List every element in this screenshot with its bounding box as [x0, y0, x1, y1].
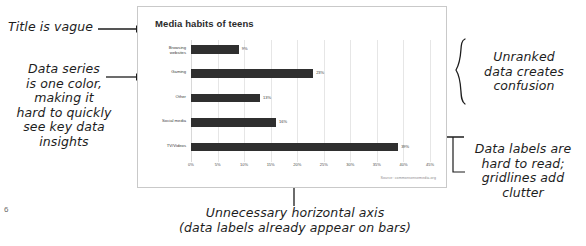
- annotation-axis: Unnecessary horizontal axis (data labels…: [150, 206, 440, 235]
- category-label: TV/Videos: [152, 143, 186, 148]
- gridline: [430, 40, 431, 162]
- bar-value-label: 13%: [263, 94, 271, 103]
- chart-row: 39%: [191, 138, 430, 158]
- x-tick-label: 15%: [267, 162, 275, 167]
- x-tick-label: 35%: [373, 162, 381, 167]
- x-tick-label: 45%: [426, 162, 434, 167]
- x-tick-label: 25%: [320, 162, 328, 167]
- bar[interactable]: [191, 45, 239, 54]
- x-tick-label: 0%: [188, 162, 194, 167]
- x-axis: 0%5%10%15%20%25%30%35%40%45%: [191, 162, 430, 172]
- bar[interactable]: [191, 118, 276, 127]
- bar-value-label: 39%: [401, 143, 409, 152]
- chart-row: 16%: [191, 113, 430, 133]
- annotation-title-vague: Title is vague: [8, 20, 93, 35]
- x-tick-label: 30%: [346, 162, 354, 167]
- category-label: Other: [152, 94, 186, 99]
- category-label: Social media: [152, 118, 186, 123]
- chart-row: 9%: [191, 40, 430, 60]
- bar[interactable]: [191, 69, 313, 78]
- chart-row: 13%: [191, 89, 430, 109]
- chart-plot-area: Browsing websitesGamingOtherSocial media…: [155, 40, 436, 162]
- category-axis: Browsing websitesGamingOtherSocial media…: [155, 40, 189, 162]
- bar-value-label: 16%: [279, 118, 287, 127]
- chart-title: Media habits of teens: [155, 18, 254, 29]
- annotation-data-labels: Data labels are hard to read; gridlines …: [462, 142, 584, 200]
- bars-container: 9%23%13%16%39%: [191, 40, 430, 162]
- x-tick-label: 5%: [215, 162, 221, 167]
- category-label: Gaming: [152, 69, 186, 74]
- x-tick-label: 10%: [240, 162, 248, 167]
- annotation-unranked: Unranked data creates confusion: [466, 50, 582, 94]
- bar[interactable]: [191, 143, 398, 152]
- bar[interactable]: [191, 94, 260, 103]
- x-tick-label: 40%: [399, 162, 407, 167]
- category-label: Browsing websites: [152, 45, 186, 55]
- source-note: Source: commonsensemedia.org: [380, 176, 436, 180]
- page-number: 6: [4, 205, 8, 214]
- chart-row: 23%: [191, 64, 430, 84]
- bar-value-label: 23%: [316, 69, 324, 78]
- bar-value-label: 9%: [242, 45, 248, 54]
- x-tick-label: 20%: [293, 162, 301, 167]
- slide-frame: Media habits of teens Browsing websitesG…: [137, 6, 447, 188]
